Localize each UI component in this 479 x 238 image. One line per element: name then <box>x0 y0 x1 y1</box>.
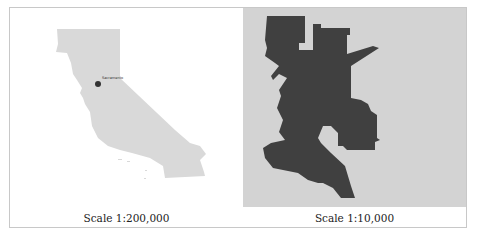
sacramento-marker-icon <box>95 81 101 87</box>
map-comparison-figure: Sacramento Scale 1:200,000 Scale 1:10,00… <box>9 7 467 228</box>
sacramento-city-shape <box>243 8 466 207</box>
state-map-panel: Sacramento Scale 1:200,000 <box>10 8 243 227</box>
city-scale-caption: Scale 1:10,000 <box>243 209 466 227</box>
state-scale-caption: Scale 1:200,000 <box>10 209 243 227</box>
state-map: Sacramento <box>10 8 243 207</box>
sacramento-label: Sacramento <box>102 76 123 80</box>
california-shape: Sacramento <box>10 8 243 207</box>
city-map-panel: Scale 1:10,000 <box>243 8 466 227</box>
city-map <box>243 8 466 207</box>
